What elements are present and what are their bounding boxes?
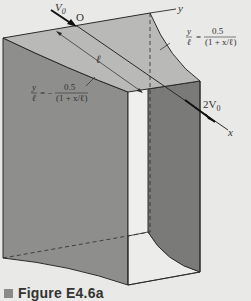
outlet-velocity-label: 2V0 [203,98,220,113]
svg-text:y: y [31,82,36,92]
caption-bullet-icon [4,289,13,298]
inner-panel [128,89,148,236]
nozzle-flow-diagram: V0 O y ℓ 2V0 x y ℓ = 0.5 (1 + x/ℓ) y ℓ =… [0,0,251,301]
svg-text:=: = [196,32,201,42]
svg-text:(1 + x/ℓ): (1 + x/ℓ) [205,37,236,47]
svg-text:ℓ: ℓ [187,37,191,47]
upper-wall-equation: y ℓ = 0.5 (1 + x/ℓ) [186,26,236,47]
svg-text:= −: = − [40,88,52,98]
length-label: ℓ [96,53,101,65]
diagram-canvas: V0 O y ℓ 2V0 x y ℓ = 0.5 (1 + x/ℓ) y ℓ =… [0,0,251,301]
origin-label: O [76,11,84,23]
svg-text:ℓ: ℓ [32,93,36,103]
x-axis-label: x [227,126,233,138]
y-axis [150,9,176,13]
right-wall [148,81,200,272]
figure-caption: Figure E4.6a [4,285,104,301]
svg-text:(1 + x/ℓ): (1 + x/ℓ) [56,93,87,103]
svg-text:y: y [186,26,191,36]
y-axis-label: y [177,2,183,14]
svg-text:0.5: 0.5 [64,82,76,92]
svg-text:0.5: 0.5 [212,26,224,36]
caption-text: Figure E4.6a [18,285,104,301]
